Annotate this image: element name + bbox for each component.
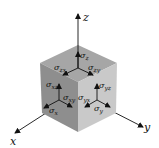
z-axis-label: z [82, 11, 89, 24]
y-axis-label: y [143, 121, 151, 134]
x-axis-label: x [10, 135, 17, 148]
stress-cube-diagram: z x y σz σzx σzy σxz σxy σx σyz σyx σy [0, 0, 159, 148]
